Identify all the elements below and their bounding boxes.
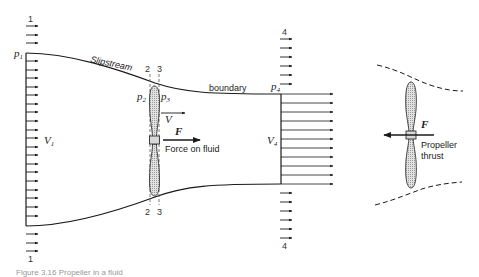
slipstream-dashed-bottom (375, 182, 462, 205)
figure-caption: Figure 3.16 Propeller in a fluid (16, 268, 123, 277)
station-2-bottom-label: 2 (145, 207, 150, 217)
station-3-top-label: 3 (157, 64, 162, 74)
propeller-thrust-panel: F Propeller thrust (375, 65, 463, 205)
station-2-top-label: 2 (145, 64, 150, 74)
station-4-top-label: 4 (282, 27, 287, 37)
inflow-arrows-v1 (26, 61, 38, 216)
station-3-bottom-label: 3 (157, 207, 162, 217)
outflow-arrows-v4 (281, 94, 333, 184)
thrust-f-label: F (420, 118, 429, 130)
inflow-arrows-outer-top (26, 26, 38, 43)
velocity-v-label: V (165, 113, 173, 125)
inflow-arrows-outer-bottom (26, 234, 38, 251)
boundary-label: boundary (209, 83, 247, 93)
outer-arrows-station-4-bottom (280, 193, 292, 238)
outer-arrows-station-4-top (280, 39, 292, 84)
propeller-blade-bottom-right (406, 137, 417, 188)
slipstream-label: Slipstream (90, 54, 134, 73)
pressure-p2-label: p2 (136, 90, 147, 104)
propeller-actuator-disk (149, 86, 159, 196)
velocity-v1-label: V1 (44, 134, 54, 148)
pressure-p1-label: p1 (13, 47, 23, 61)
pressure-p3-label: p3 (160, 90, 171, 104)
station-1-bottom-label: 1 (28, 254, 33, 264)
control-volume-panel: 1 1 p1 V1 Slipstream boundary 2 3 2 3 p2… (13, 14, 333, 264)
station-4-bottom-label: 4 (282, 241, 287, 251)
propeller-blade-top-right (406, 82, 417, 133)
velocity-v4-label: V4 (267, 134, 278, 148)
propeller-thrust-label-line2: thrust (421, 151, 444, 161)
propeller-blade-bottom (149, 144, 159, 196)
propeller-hub (150, 136, 160, 144)
pressure-p4-label: p4 (270, 80, 281, 94)
station-1-top-label: 1 (28, 14, 33, 24)
propeller-slipstream-diagram: 1 1 p1 V1 Slipstream boundary 2 3 2 3 p2… (0, 0, 479, 277)
slipstream-dashed-top (377, 65, 463, 91)
propeller-thrust-label-line1: Propeller (421, 140, 457, 150)
force-f-label: F (174, 125, 183, 137)
force-on-fluid-label: Force on fluid (165, 144, 220, 154)
propeller-blade-top (149, 86, 159, 138)
